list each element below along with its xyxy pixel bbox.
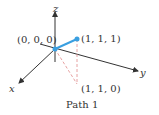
point-111 [75,37,80,42]
path-segment [55,39,77,49]
x-axis [19,49,55,83]
axes-diagram [0,0,159,115]
point-111-label: (1, 1, 1) [81,34,121,44]
dashed-diagonal [55,49,77,84]
point-110-label: (1, 1, 0) [81,84,121,94]
origin-point [53,47,58,52]
z-axis-label: z [53,4,58,14]
y-axis-label: y [140,68,146,78]
origin-label: (0, 0, 0) [17,35,57,45]
x-axis-label: x [9,84,15,94]
caption: Path 1 [66,100,98,110]
